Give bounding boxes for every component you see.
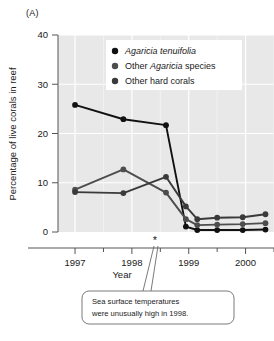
callout-leader-lines xyxy=(143,246,158,291)
data-point xyxy=(263,220,269,226)
data-point xyxy=(263,227,269,233)
y-tick-label: 20 xyxy=(37,128,48,139)
data-point xyxy=(163,190,169,196)
chart-svg: 010203040 1997199819992000 Percentage of… xyxy=(0,0,274,341)
legend-marker-2 xyxy=(112,63,118,69)
data-point xyxy=(194,216,200,222)
legend-label-3: Other hard corals xyxy=(125,76,195,86)
data-point xyxy=(183,203,189,209)
data-point xyxy=(120,167,126,173)
callout-line-1: Sea surface temperatures xyxy=(92,297,180,306)
chart-legend: Agaricia tenuifoliaOther Agaricia specie… xyxy=(106,40,242,90)
data-point xyxy=(214,222,220,228)
data-point xyxy=(214,215,220,221)
data-point xyxy=(194,222,200,228)
data-point xyxy=(240,221,246,227)
x-tick-label: 2000 xyxy=(235,257,256,268)
data-point xyxy=(72,189,78,195)
callout-box: Sea surface temperatures were unusually … xyxy=(82,291,234,324)
asterisk-marker: * xyxy=(153,234,158,246)
data-point xyxy=(263,211,269,217)
x-tick-label: 1997 xyxy=(64,257,85,268)
x-axis-ticks: 1997199819992000 xyxy=(64,248,274,268)
x-tick-label: 1998 xyxy=(121,257,142,268)
data-point xyxy=(214,227,220,233)
data-point xyxy=(163,122,169,128)
y-tick-label: 10 xyxy=(37,177,48,188)
data-point xyxy=(163,174,169,180)
data-point xyxy=(240,227,246,233)
callout-line-2: were unusually high in 1998. xyxy=(91,309,188,318)
legend-marker-3 xyxy=(112,78,118,84)
data-point xyxy=(183,224,189,230)
data-point xyxy=(183,216,189,222)
data-point xyxy=(240,214,246,220)
legend-label-1: Agaricia tenuifolia xyxy=(124,46,196,56)
figure-panel-a: (A) 010203040 1997199819992000 Percentag… xyxy=(0,0,274,341)
y-axis-title: Percentage of live corals in reef xyxy=(7,67,18,200)
y-tick-label: 0 xyxy=(43,226,48,237)
x-tick-label: 1999 xyxy=(178,257,199,268)
y-tick-label: 30 xyxy=(37,79,48,90)
y-axis-ticks: 010203040 xyxy=(37,29,58,237)
y-tick-label: 40 xyxy=(37,29,48,40)
data-point xyxy=(72,102,78,108)
data-point xyxy=(120,116,126,122)
legend-marker-1 xyxy=(112,48,118,54)
x-axis-title: Year xyxy=(112,269,131,280)
legend-label-2: Other Agaricia species xyxy=(125,61,216,71)
data-point xyxy=(120,190,126,196)
